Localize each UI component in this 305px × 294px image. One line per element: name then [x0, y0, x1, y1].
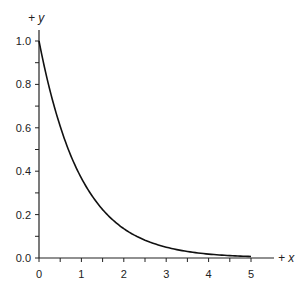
- x-tick-label: 2: [121, 268, 127, 280]
- y-tick-label: 0.6: [16, 122, 31, 134]
- y-tick-label: 0.2: [16, 209, 31, 221]
- y-tick-label: 0.4: [16, 165, 31, 177]
- tick-labels: 0123450.00.20.40.60.81.0: [16, 35, 254, 280]
- x-tick-label: 0: [36, 268, 42, 280]
- exponential-decay-chart: 0123450.00.20.40.60.81.0 + y + x: [0, 0, 305, 294]
- y-tick-label: 0.0: [16, 252, 31, 264]
- y-tick-label: 0.8: [16, 78, 31, 90]
- x-axis-label: + x: [278, 251, 295, 265]
- ticks: [35, 41, 251, 262]
- axes: [39, 30, 274, 258]
- x-tick-label: 5: [248, 268, 254, 280]
- x-tick-label: 1: [78, 268, 84, 280]
- y-axis-label: + y: [28, 11, 45, 25]
- x-tick-label: 3: [163, 268, 169, 280]
- y-tick-label: 1.0: [16, 35, 31, 47]
- decay-curve: [39, 41, 251, 256]
- x-tick-label: 4: [206, 268, 212, 280]
